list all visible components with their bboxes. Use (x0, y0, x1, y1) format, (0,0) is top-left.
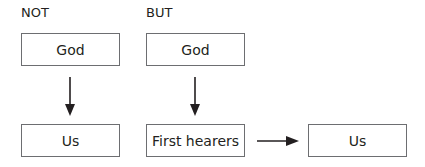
arrow-down-icon (190, 77, 200, 116)
arrows (0, 0, 425, 167)
arrow-down-icon (65, 77, 75, 116)
arrow-right-icon (257, 136, 299, 146)
